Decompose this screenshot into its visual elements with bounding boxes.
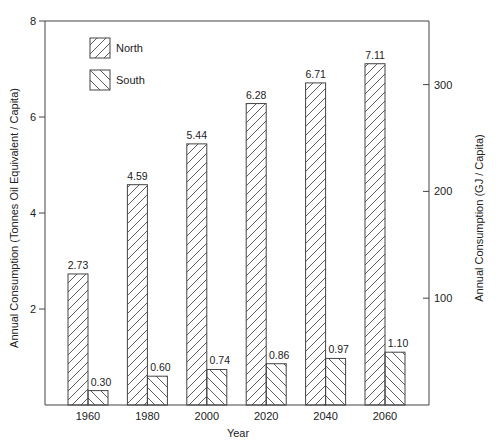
x-axis-label: Year <box>227 427 250 439</box>
bar-value-label: 7.11 <box>365 49 385 61</box>
x-tick-label: 2040 <box>313 410 337 422</box>
bar-value-label: 0.74 <box>210 354 231 366</box>
bar-north-2000 <box>187 144 207 405</box>
legend-swatch-north <box>90 38 110 58</box>
bar-value-label: 0.97 <box>328 343 349 355</box>
right-y-axis-ticks: 100200300 <box>423 79 452 305</box>
bar-south-2000 <box>207 369 227 405</box>
bar-value-label: 0.30 <box>91 376 112 388</box>
y-tick-label: 4 <box>30 207 36 219</box>
bar-value-label: 5.44 <box>187 129 208 141</box>
bar-north-2020 <box>246 104 266 405</box>
y-tick-label: 2 <box>30 303 36 315</box>
x-tick-label: 1980 <box>135 410 159 422</box>
y-tick-label: 8 <box>30 15 36 27</box>
y-axis-label: Annual Consumption (Tonnes Oil Equivalen… <box>8 88 20 348</box>
bar-value-label: 6.28 <box>246 89 267 101</box>
x-tick-label: 1960 <box>76 410 100 422</box>
bar-value-label: 4.59 <box>127 170 148 182</box>
bar-north-2040 <box>306 83 326 405</box>
bar-value-label: 0.60 <box>150 361 171 373</box>
legend-label-south: South <box>116 74 145 86</box>
legend-swatch-south <box>90 70 110 90</box>
bar-north-2060 <box>365 64 385 405</box>
bar-north-1960 <box>68 274 88 405</box>
bar-value-label: 1.10 <box>388 337 409 349</box>
left-y-axis-ticks: 2468 <box>30 15 45 315</box>
bar-south-2020 <box>266 364 286 405</box>
bar-north-1980 <box>127 185 147 405</box>
x-tick-label: 2000 <box>195 410 219 422</box>
right-y-axis-label: Annual Consumption (GJ / Capita) <box>473 134 485 302</box>
bar-chart: 2468 100200300 2.730.304.590.605.440.746… <box>0 0 499 448</box>
legend-label-north: North <box>116 42 143 54</box>
y2-tick-label: 200 <box>434 185 452 197</box>
bar-south-1960 <box>88 391 108 405</box>
y2-tick-label: 300 <box>434 79 452 91</box>
y-tick-label: 6 <box>30 111 36 123</box>
bar-value-label: 0.86 <box>269 349 290 361</box>
bar-series: 2.730.304.590.605.440.746.280.866.710.97… <box>68 49 409 405</box>
x-tick-label: 2020 <box>254 410 278 422</box>
bar-south-1980 <box>147 376 167 405</box>
x-tick-label: 2060 <box>373 410 397 422</box>
y2-tick-label: 100 <box>434 292 452 304</box>
x-axis-tick-labels: 196019802000202020402060 <box>76 410 397 422</box>
bar-value-label: 6.71 <box>305 68 326 80</box>
legend: NorthSouth <box>90 38 145 90</box>
bar-south-2060 <box>385 352 405 405</box>
bar-value-label: 2.73 <box>68 259 89 271</box>
bar-south-2040 <box>326 358 346 405</box>
